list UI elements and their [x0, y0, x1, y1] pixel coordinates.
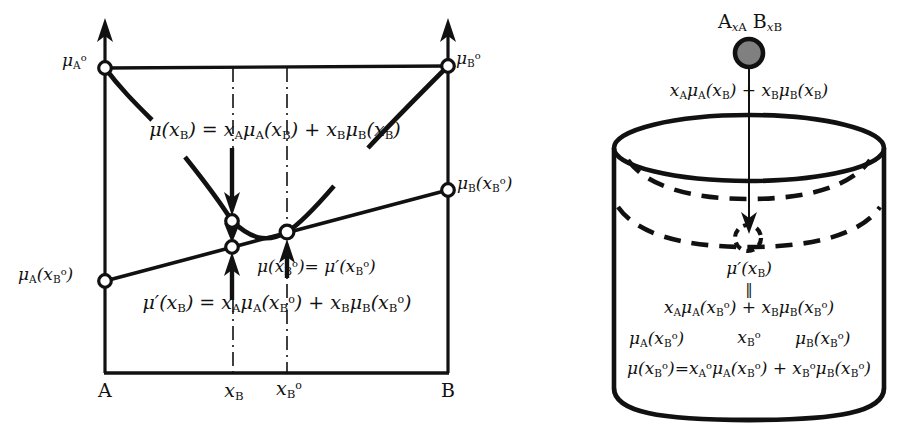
label-mu-prime-inner: μ′(xB) [726, 258, 772, 279]
axis-endpoint-A: A [98, 379, 112, 401]
label-mixture-composition: AxA BxB [718, 10, 782, 34]
marker-tangent-at-xB [226, 241, 239, 254]
equation-inner-sum: xAμA(xBo) + xBμB(xBo) [664, 297, 834, 318]
label-incoming-flux: xAμA(xB) + xBμB(xB) [670, 80, 828, 101]
gibbs-curve-left-upper [105, 68, 152, 120]
label-row-mu-B: μB(xBo) [795, 328, 850, 349]
equation-equality-at-xB0: μ(xBo)= μ′(xBo) [257, 256, 376, 277]
label-row-xB-standard: xBo [737, 327, 760, 348]
marker-mu-B-at-xB0 [442, 184, 455, 197]
label-mu-A-pure: μAo [62, 50, 87, 71]
marker-tangency-point [280, 225, 294, 239]
label-mu-B-at-xB0: μB(xBo) [457, 173, 512, 194]
gibbs-curve-left-lower [185, 157, 232, 221]
equation-mu-of-xB: μ(xB) = xAμA(xB) + xBμB(xB) [149, 118, 400, 142]
label-row-mu-A: μA(xBo) [629, 328, 684, 349]
pure-potential-tieline [105, 66, 448, 68]
axis-tick-xB: xB [224, 379, 243, 403]
marker-mu-A-pure [99, 62, 112, 75]
equation-standard-state: μ(xBo)=xAoμA(xBo) + xBoμB(xBo) [627, 358, 871, 379]
figure-canvas: μAo μBo μA(xBo) μB(xBo) μ(xB) = xAμA(xB)… [0, 0, 904, 430]
marker-curve-at-xB [226, 215, 239, 228]
label-mu-B-pure: μBo [456, 48, 481, 69]
marker-mu-B-pure [442, 60, 455, 73]
marker-mu-A-at-xB0 [99, 275, 112, 288]
source-sphere [735, 39, 763, 67]
cylinder-bottom [614, 388, 884, 420]
equation-mu-prime-of-xB: μ′(xB) = xAμA(xBo) + xBμB(xBo) [142, 291, 411, 315]
axis-endpoint-B: B [441, 379, 455, 401]
label-mu-A-at-xB0: μA(xBo) [18, 264, 73, 285]
label-equality-sign: ‖ [745, 280, 753, 298]
axis-tick-xB-standard: xBo [276, 377, 302, 401]
